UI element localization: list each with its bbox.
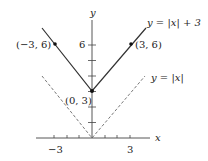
point-neg3-6: [53, 42, 57, 46]
y-axis-label: y: [89, 7, 96, 18]
point-3-6: [129, 42, 133, 46]
curve-abs-x-plus-3: [42, 28, 146, 91]
point-0-3: [90, 89, 94, 93]
label-dashed-curve: y = |x|: [150, 72, 184, 84]
label-pt-vertex: (0, 3): [65, 95, 92, 106]
tick-label-3: 3: [127, 144, 133, 155]
abs-value-graph: y x −3 3 6 (−3, 6) (3, 6) (0, 3) y = |x|…: [0, 0, 208, 161]
x-axis-label: x: [155, 132, 161, 143]
tick-label-neg3: −3: [48, 144, 63, 155]
label-pt-left: (−3, 6): [16, 39, 51, 50]
tick-label-6: 6: [79, 39, 85, 50]
label-solid-curve: y = |x| + 3: [146, 17, 201, 29]
label-pt-right: (3, 6): [135, 39, 162, 50]
